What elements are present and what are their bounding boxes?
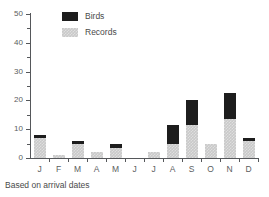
- bar-march: [72, 141, 84, 158]
- y-axis-tick: [27, 115, 30, 116]
- bar-february: [53, 155, 65, 158]
- y-axis-tick-label: 50: [14, 8, 23, 19]
- x-axis-tick-label: F: [56, 164, 61, 175]
- y-axis-tick: 40: [26, 43, 30, 44]
- y-axis-tick: [27, 86, 30, 87]
- plot-area: 01020304050JFMAMJJASOND: [30, 14, 258, 158]
- y-axis-tick-label: 30: [14, 66, 23, 77]
- y-axis-tick-label: 10: [14, 123, 23, 134]
- bar-september: [186, 100, 198, 158]
- bar-segment-birds: [224, 93, 236, 119]
- y-axis-tick: [27, 57, 30, 58]
- bar-segment-records: [53, 155, 65, 158]
- bar-segment-records: [91, 152, 103, 158]
- y-axis-tick: 50: [26, 14, 30, 15]
- y-axis-tick: [27, 28, 30, 29]
- x-axis-tick: [258, 158, 259, 162]
- x-axis-tick: [239, 158, 240, 162]
- bar-segment-records: [110, 148, 122, 158]
- x-axis-tick-label: M: [74, 164, 81, 175]
- x-axis-tick-label: A: [170, 164, 176, 175]
- bar-segment-birds: [72, 141, 84, 144]
- bar-may: [110, 144, 122, 158]
- bar-april: [91, 152, 103, 158]
- y-axis-tick: 20: [26, 100, 30, 101]
- bar-segment-birds: [167, 125, 179, 144]
- x-axis-tick: [144, 158, 145, 162]
- bar-july: [148, 152, 160, 158]
- y-axis-tick: [27, 144, 30, 145]
- bar-segment-records: [34, 138, 46, 158]
- bar-segment-records: [205, 144, 217, 158]
- bar-august: [167, 125, 179, 158]
- y-axis-tick: 30: [26, 72, 30, 73]
- bar-january: [34, 135, 46, 158]
- bar-segment-records: [148, 152, 160, 158]
- bar-segment-records: [167, 144, 179, 158]
- x-axis-tick-label: D: [245, 164, 251, 175]
- bar-segment-records: [224, 119, 236, 158]
- x-axis-tick: [163, 158, 164, 162]
- x-axis-tick-label: M: [112, 164, 119, 175]
- bar-segment-birds: [186, 100, 198, 124]
- y-axis-tick: 10: [26, 129, 30, 130]
- bar-segment-birds: [34, 135, 46, 138]
- bar-segment-records: [243, 141, 255, 158]
- x-axis-tick-label: J: [132, 164, 136, 175]
- x-axis-tick: [49, 158, 50, 162]
- y-axis-tick: 0: [26, 158, 30, 159]
- x-axis-tick: [125, 158, 126, 162]
- x-axis-tick: [106, 158, 107, 162]
- x-axis-tick-label: N: [226, 164, 232, 175]
- y-axis-tick-label: 40: [14, 37, 23, 48]
- bar-december: [243, 138, 255, 158]
- x-axis-tick-label: A: [94, 164, 100, 175]
- bar-october: [205, 144, 217, 158]
- x-axis-tick: [87, 158, 88, 162]
- x-axis-tick-label: O: [207, 164, 214, 175]
- bar-segment-records: [72, 144, 84, 158]
- x-axis-tick-label: J: [37, 164, 41, 175]
- x-axis-tick: [201, 158, 202, 162]
- x-axis-tick: [68, 158, 69, 162]
- x-axis-tick: [220, 158, 221, 162]
- bar-segment-birds: [110, 144, 122, 148]
- y-axis-tick-label: 20: [14, 94, 23, 105]
- bar-segment-birds: [243, 138, 255, 141]
- x-axis-tick: [182, 158, 183, 162]
- x-axis-tick-label: S: [189, 164, 195, 175]
- bar-november: [224, 93, 236, 158]
- x-axis-tick-label: J: [151, 164, 155, 175]
- chart-caption: Based on arrival dates: [5, 180, 90, 191]
- bar-chart: Birds Records 01020304050JFMAMJJASOND Ba…: [0, 0, 269, 197]
- y-axis-tick-label: 0: [19, 152, 23, 163]
- bar-segment-records: [186, 125, 198, 158]
